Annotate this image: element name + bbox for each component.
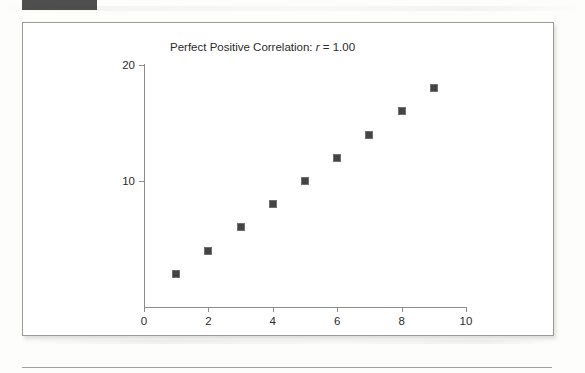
data-point bbox=[365, 131, 373, 139]
x-axis-tick-label: 10 bbox=[451, 315, 481, 327]
scanned-page: Perfect Positive Correlation: r = 1.00 1… bbox=[0, 0, 585, 373]
data-point bbox=[301, 177, 309, 185]
y-axis-tick bbox=[139, 181, 144, 182]
data-point bbox=[269, 200, 277, 208]
x-axis-tick-label: 2 bbox=[193, 315, 223, 327]
scatter-plot: Perfect Positive Correlation: r = 1.00 1… bbox=[23, 23, 553, 335]
y-axis-tick bbox=[139, 65, 144, 66]
x-axis-tick bbox=[466, 307, 467, 312]
scan-artifact-streak bbox=[0, 6, 585, 11]
page-bottom-rule bbox=[22, 367, 552, 368]
chart-title-suffix: = 1.00 bbox=[320, 41, 356, 53]
chart-title: Perfect Positive Correlation: r = 1.00 bbox=[170, 41, 355, 53]
y-axis-tick-label: 20 bbox=[101, 59, 135, 71]
data-point bbox=[398, 107, 406, 115]
x-axis-line bbox=[144, 307, 466, 308]
figure-container: Perfect Positive Correlation: r = 1.00 1… bbox=[22, 22, 554, 336]
data-point bbox=[430, 84, 438, 92]
scan-artifact-bottom bbox=[22, 340, 552, 344]
x-axis-tick-label: 0 bbox=[129, 315, 159, 327]
y-axis-tick-label: 10 bbox=[101, 175, 135, 187]
chart-title-prefix: Perfect Positive Correlation: bbox=[170, 41, 316, 53]
data-point bbox=[172, 270, 180, 278]
x-axis-tick bbox=[337, 307, 338, 312]
x-axis-tick bbox=[273, 307, 274, 312]
y-axis-line bbox=[144, 64, 145, 307]
x-axis-tick bbox=[208, 307, 209, 312]
data-point bbox=[204, 247, 212, 255]
x-axis-tick-label: 4 bbox=[258, 315, 288, 327]
x-axis-tick bbox=[402, 307, 403, 312]
x-axis-tick bbox=[144, 307, 145, 312]
x-axis-tick-label: 8 bbox=[387, 315, 417, 327]
data-point bbox=[237, 223, 245, 231]
x-axis-tick-label: 6 bbox=[322, 315, 352, 327]
data-point bbox=[333, 154, 341, 162]
